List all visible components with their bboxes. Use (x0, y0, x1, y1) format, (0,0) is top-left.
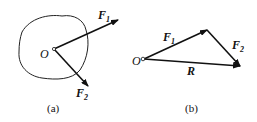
f2-symbol: F (232, 38, 240, 52)
force-diagram (0, 0, 257, 122)
point-o-label-a: O (40, 47, 49, 62)
resultant-label-b: R (187, 64, 195, 79)
f2-symbol: F (76, 86, 84, 100)
f1-symbol: F (163, 30, 171, 44)
caption-b: (b) (185, 102, 198, 114)
force-f2-label-b: F2 (232, 38, 244, 54)
f2-subscript: 2 (240, 45, 244, 54)
force-f1-vector-b (144, 30, 207, 59)
point-o-label-b: O (132, 54, 141, 69)
force-f2-label-a: F2 (76, 86, 88, 102)
f1-symbol: F (98, 8, 106, 22)
point-o-b (141, 57, 145, 61)
caption-a: (a) (47, 102, 59, 114)
f1-subscript: 1 (106, 15, 110, 24)
force-f1-label-a: F1 (98, 8, 110, 24)
force-f1-label-b: F1 (163, 30, 175, 46)
force-f2-vector-a (54, 49, 88, 86)
f2-subscript: 2 (84, 93, 88, 102)
point-o-a (52, 47, 55, 50)
f1-subscript: 1 (171, 37, 175, 46)
